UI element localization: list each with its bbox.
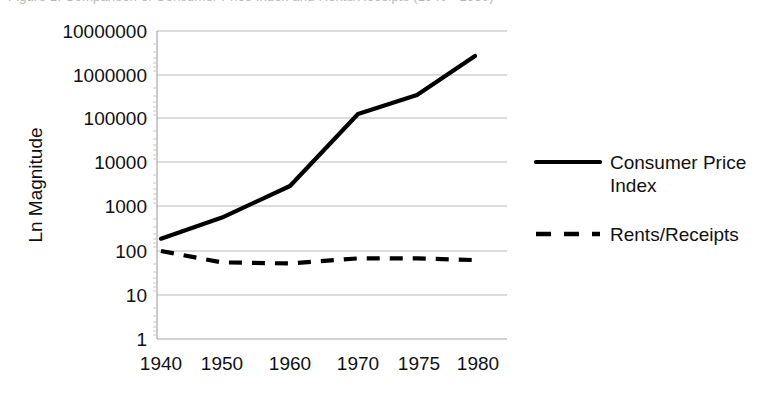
x-tick-label: 1960 <box>269 353 311 374</box>
legend: Consumer Price Index Rents/Receipts <box>536 152 752 245</box>
x-tick-labels: 1940 1950 1960 1970 1975 1980 <box>140 353 499 374</box>
y-tick-label: 10000000 <box>62 21 147 42</box>
x-tick-label: 1950 <box>201 353 243 374</box>
y-tick-labels: 10000000 1000000 100000 10000 1000 100 1… <box>62 21 147 350</box>
y-tick-label: 1000000 <box>73 65 147 86</box>
chart-area: 10000000 1000000 100000 10000 1000 100 1… <box>0 8 758 400</box>
x-tick-label: 1980 <box>457 353 499 374</box>
y-tick-label: 100000 <box>84 108 147 129</box>
figure-container: Figure 1. Comparison of Consumer Price I… <box>0 0 758 400</box>
y-tick-label: 100 <box>115 241 147 262</box>
x-tick-label: 1970 <box>337 353 379 374</box>
y-tick-label: 1000 <box>105 196 147 217</box>
y-axis-minor-ticks <box>153 44 157 335</box>
clipped-figure-caption: Figure 1. Comparison of Consumer Price I… <box>0 0 758 7</box>
legend-label-rents-receipts: Rents/Receipts <box>610 224 739 245</box>
y-tick-label: 10 <box>126 285 147 306</box>
y-tick-label: 10000 <box>94 152 147 173</box>
x-tick-label: 1940 <box>140 353 182 374</box>
y-axis-title: Ln Magnitude <box>25 127 46 242</box>
line-chart: 10000000 1000000 100000 10000 1000 100 1… <box>0 8 758 400</box>
x-tick-label: 1975 <box>398 353 440 374</box>
legend-label-consumer-price-index: Consumer Price Index <box>610 152 752 196</box>
plot-background <box>157 31 507 339</box>
y-tick-label: 1 <box>136 329 147 350</box>
figure-caption-text: Figure 1. Comparison of Consumer Price I… <box>8 0 494 4</box>
